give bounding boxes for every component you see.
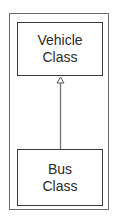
bus-class-box: Bus Class	[17, 149, 103, 206]
hollow-triangle-arrowhead-icon	[57, 77, 64, 83]
bus-class-name: Bus	[42, 161, 77, 178]
bus-class-suffix: Class	[42, 178, 77, 195]
